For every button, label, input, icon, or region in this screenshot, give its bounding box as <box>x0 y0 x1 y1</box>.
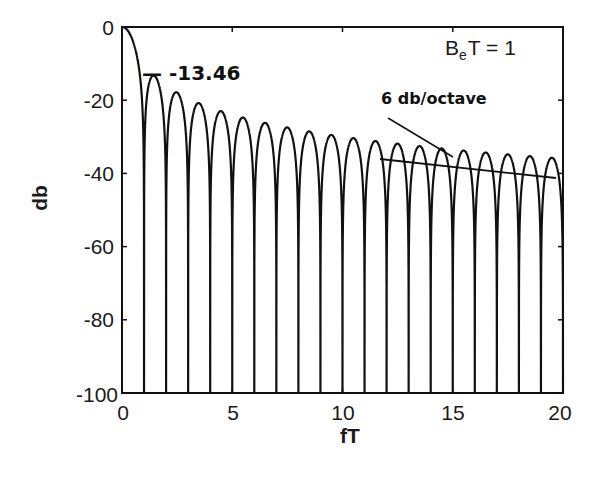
ytick-0: 0 <box>102 16 114 39</box>
x-tick-labels: 0 5 10 15 20 <box>117 401 572 424</box>
ytick-neg60: -60 <box>84 235 114 258</box>
y-tick-labels: 0 -20 -40 -60 -80 -100 <box>76 16 118 406</box>
y-axis-title: db <box>28 185 51 211</box>
xtick-0: 0 <box>117 401 129 424</box>
param-label: BeT = 1 <box>445 36 516 63</box>
xtick-20: 20 <box>548 401 571 424</box>
svg-text:BeT = 1: BeT = 1 <box>445 36 516 63</box>
ytick-neg20: -20 <box>84 89 114 112</box>
sinc-spectrum-chart: 0 -20 -40 -60 -80 -100 0 5 10 15 20 fT d… <box>0 0 597 477</box>
ytick-neg100: -100 <box>76 383 118 406</box>
slope-pointer-line <box>388 118 453 157</box>
x-axis-title: fT <box>340 424 360 447</box>
xtick-15: 15 <box>441 401 464 424</box>
xtick-10: 10 <box>331 401 354 424</box>
slope-annotation: 6 db/octave <box>381 89 487 108</box>
ytick-neg40: -40 <box>84 162 114 185</box>
xtick-5: 5 <box>227 401 239 424</box>
ytick-neg80: -80 <box>84 308 114 331</box>
first-sidelobe-annotation: — -13.46 <box>142 61 241 85</box>
